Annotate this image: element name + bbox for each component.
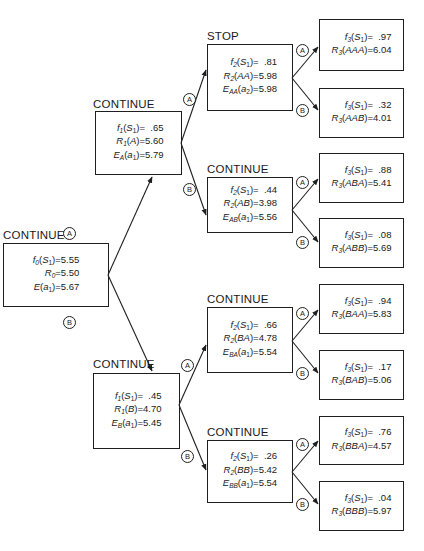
branch-a-marker: A: [296, 307, 309, 320]
formula-line: R2(BA)=4.78: [223, 333, 277, 347]
formula-line: R1(A)=5.60: [114, 136, 164, 150]
formula-line: EAB(a1)=5.56: [223, 212, 277, 226]
formula-line: f3(S1)= .88: [332, 165, 392, 179]
node-values: f3(S1)= .97R3(AAA)=6.04: [332, 32, 392, 59]
branch-b-marker: B: [296, 367, 309, 380]
node-values: f3(S1)= .08R3(ABB)=5.69: [332, 230, 392, 257]
formula-line: R2(BB)=5.42: [223, 465, 277, 479]
formula-line: f2(S1)= .66: [223, 320, 277, 334]
formula-line: R3(BBB)=5.97: [332, 506, 392, 520]
node-values: f2(S1)= .26R2(BB)=5.42EBB(a1)=5.54: [223, 451, 277, 492]
formula-line: R3(ABA)=5.41: [332, 178, 392, 192]
formula-line: f1(S1)= .45: [112, 391, 162, 405]
node-values: f1(S1)= .65R1(A)=5.60EA(a1)=5.79: [114, 123, 164, 164]
branch-a-marker: A: [296, 44, 309, 57]
formula-line: f3(S1)= .32: [332, 100, 392, 114]
formula-line: R0=5.50: [33, 268, 80, 282]
formula-line: f3(S1)= .97: [332, 32, 392, 46]
node-values: f1(S1)= .45R1(B)=4.70EB(a1)=5.45: [112, 391, 162, 432]
formula-line: f0(S1)=5.55: [33, 255, 80, 269]
node-b-status: CONTINUE: [93, 358, 155, 370]
formula-line: R1(B)=4.70: [112, 404, 162, 418]
formula-line: EBB(a1)=5.54: [223, 478, 277, 492]
node-values: f3(S1)= .94R3(BAA)=5.83: [332, 296, 392, 323]
node-values: f2(S1)= .81R2(AA)=5.98EAA(a2)=5.98: [223, 57, 277, 98]
formula-line: E(a1)=5.67: [33, 282, 80, 296]
formula-line: f3(S1)= .17: [332, 362, 392, 376]
formula-line: EB(a1)=5.45: [112, 418, 162, 432]
formula-line: R2(AB)=3.98: [223, 198, 277, 212]
branch-b-marker: B: [183, 183, 196, 196]
formula-line: EA(a1)=5.79: [114, 150, 164, 164]
node-abb-box: f3(S1)= .08R3(ABB)=5.69: [319, 218, 404, 268]
branch-b-marker: B: [296, 236, 309, 249]
node-root-status: CONTINUE: [3, 229, 65, 241]
node-b-box: f1(S1)= .45R1(B)=4.70EB(a1)=5.45: [93, 373, 180, 449]
node-aba-box: f3(S1)= .88R3(ABA)=5.41: [319, 153, 404, 203]
formula-line: f3(S1)= .04: [332, 493, 392, 507]
node-bbb-box: f3(S1)= .04R3(BBB)=5.97: [319, 481, 404, 531]
branch-b-marker: B: [296, 498, 309, 511]
formula-line: R3(AAA)=6.04: [332, 45, 392, 59]
node-bab-box: f3(S1)= .17R3(BAB)=5.06: [319, 350, 404, 400]
formula-line: EBA(a1)=5.54: [223, 347, 277, 361]
branch-b-marker: B: [296, 104, 309, 117]
node-bb-box: f2(S1)= .26R2(BB)=5.42EBB(a1)=5.54: [207, 440, 293, 503]
formula-line: R3(BAB)=5.06: [332, 375, 392, 389]
node-bb-status: CONTINUE: [207, 426, 269, 438]
node-a-status: CONTINUE: [93, 98, 155, 110]
branch-a-marker: A: [296, 438, 309, 451]
formula-line: R3(ABB)=5.69: [332, 243, 392, 257]
node-bba-box: f3(S1)= .76R3(BBA)=4.57: [319, 416, 404, 465]
node-ba-status: CONTINUE: [207, 293, 269, 305]
node-values: f3(S1)= .04R3(BBB)=5.97: [332, 493, 392, 520]
formula-line: R3(BBA)=4.57: [332, 441, 392, 455]
formula-line: f3(S1)= .94: [332, 296, 392, 310]
node-ab-box: f2(S1)= .44R2(AB)=3.98EAB(a1)=5.56: [207, 177, 293, 233]
branch-b-marker: B: [181, 450, 194, 463]
formula-line: f2(S1)= .44: [223, 185, 277, 199]
branch-a-marker: A: [296, 176, 309, 189]
formula-line: f2(S1)= .26: [223, 451, 277, 465]
branch-b-marker: B: [63, 316, 76, 329]
node-aab-box: f3(S1)= .32R3(AAB)=4.01: [319, 88, 404, 138]
node-values: f3(S1)= .17R3(BAB)=5.06: [332, 362, 392, 389]
formula-line: f3(S1)= .76: [332, 427, 392, 441]
formula-line: R3(BAA)=5.83: [332, 309, 392, 323]
node-ba-box: f2(S1)= .66R2(BA)=4.78EBA(a1)=5.54: [207, 307, 293, 373]
node-values: f0(S1)=5.55R0=5.50E(a1)=5.67: [33, 255, 80, 296]
node-aaa-box: f3(S1)= .97R3(AAA)=6.04: [319, 19, 404, 71]
node-root-box: f0(S1)=5.55R0=5.50E(a1)=5.67: [3, 243, 109, 307]
node-values: f3(S1)= .32R3(AAB)=4.01: [332, 100, 392, 127]
node-values: f2(S1)= .44R2(AB)=3.98EAB(a1)=5.56: [223, 185, 277, 226]
formula-line: f2(S1)= .81: [223, 57, 277, 71]
formula-line: f1(S1)= .65: [114, 123, 164, 137]
formula-line: R3(AAB)=4.01: [332, 113, 392, 127]
branch-a-marker: A: [181, 359, 194, 372]
node-a-box: f1(S1)= .65R1(A)=5.60EA(a1)=5.79: [95, 111, 182, 175]
node-aa-box: f2(S1)= .81R2(AA)=5.98EAA(a2)=5.98: [207, 44, 293, 111]
node-values: f2(S1)= .66R2(BA)=4.78EBA(a1)=5.54: [223, 320, 277, 361]
branch-a-marker: A: [183, 93, 196, 106]
formula-line: R2(AA)=5.98: [223, 71, 277, 85]
node-ab-status: CONTINUE: [207, 163, 269, 175]
node-baa-box: f3(S1)= .94R3(BAA)=5.83: [319, 284, 404, 334]
node-values: f3(S1)= .76R3(BBA)=4.57: [332, 427, 392, 454]
node-values: f3(S1)= .88R3(ABA)=5.41: [332, 165, 392, 192]
formula-line: EAA(a2)=5.98: [223, 84, 277, 98]
node-aa-status: STOP: [207, 30, 239, 42]
formula-line: f3(S1)= .08: [332, 230, 392, 244]
